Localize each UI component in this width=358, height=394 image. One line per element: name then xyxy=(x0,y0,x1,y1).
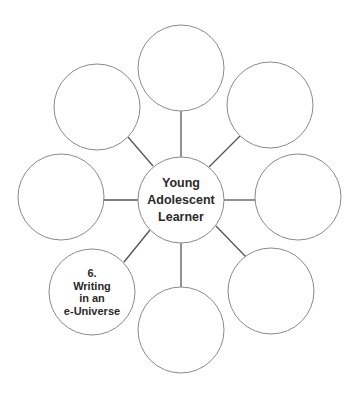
center-line-1: Young xyxy=(162,175,200,192)
node-label-line-4: e-Universe xyxy=(64,305,120,318)
node-upper-left xyxy=(54,64,140,150)
lower-left-node-label: 6. Writing in an e-Universe xyxy=(49,249,135,335)
node-top xyxy=(138,25,224,111)
center-node-label: Young Adolescent Learner xyxy=(138,157,224,243)
center-line-2: Adolescent xyxy=(147,192,214,209)
center-line-3: Learner xyxy=(158,209,204,226)
node-lower-right xyxy=(228,248,314,334)
node-label-line-3: in an xyxy=(79,292,105,305)
node-upper-right xyxy=(227,62,313,148)
node-label-line-1: 6. xyxy=(87,267,96,280)
node-left xyxy=(18,154,104,240)
node-label-line-2: Writing xyxy=(73,280,111,293)
node-bottom xyxy=(138,287,224,373)
node-right xyxy=(255,154,341,240)
